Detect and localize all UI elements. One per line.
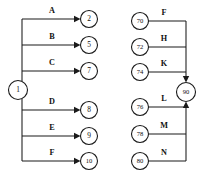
arrowhead-into-90-bottom xyxy=(183,102,189,109)
node-2-label: 2 xyxy=(87,14,91,23)
edge-label-b: B xyxy=(49,32,55,41)
edge-label-c: C xyxy=(49,58,55,67)
arrowhead-to-10 xyxy=(74,158,81,164)
diagram-canvas: 1 2 5 7 8 9 10 A B C D E F xyxy=(0,0,211,175)
edge-label-m: M xyxy=(160,121,168,130)
node-80-label: 80 xyxy=(137,157,144,164)
node-8-label: 8 xyxy=(87,105,91,114)
arrowhead-to-2 xyxy=(74,16,81,22)
node-76-label: 76 xyxy=(137,103,144,110)
node-72-label: 72 xyxy=(137,43,144,50)
edge-label-e: E xyxy=(49,123,55,132)
edge-label-n: N xyxy=(161,148,167,157)
node-74-label: 74 xyxy=(137,68,144,75)
arrowhead-to-9 xyxy=(74,133,81,139)
node-78-label: 78 xyxy=(137,130,144,137)
node-7-label: 7 xyxy=(87,66,91,75)
edge-label-k: K xyxy=(161,59,168,68)
edge-label-l: L xyxy=(161,94,167,103)
node-90-label: 90 xyxy=(183,88,190,95)
edge-label-a: A xyxy=(49,6,55,15)
edge-label-f-right: F xyxy=(161,8,166,17)
edge-label-f-left: F xyxy=(49,148,54,157)
arrowhead-to-7 xyxy=(74,68,81,74)
node-9-label: 9 xyxy=(87,131,91,140)
arrowhead-to-5 xyxy=(74,42,81,48)
diagram-svg: 1 2 5 7 8 9 10 A B C D E F xyxy=(0,0,211,175)
node-5-label: 5 xyxy=(87,40,91,49)
node-10-label: 10 xyxy=(86,157,93,164)
arrowhead-to-8 xyxy=(74,107,81,113)
arrowhead-into-90-top xyxy=(183,76,189,83)
left-fan-group: 1 2 5 7 8 9 10 A B C D E F xyxy=(9,6,98,170)
edge-label-d: D xyxy=(49,97,55,106)
node-70-label: 70 xyxy=(137,17,144,24)
edge-label-h: H xyxy=(161,34,168,43)
node-1-label: 1 xyxy=(16,85,20,94)
right-fan-group: 70 72 74 76 78 80 90 F H K L M N xyxy=(132,8,196,170)
